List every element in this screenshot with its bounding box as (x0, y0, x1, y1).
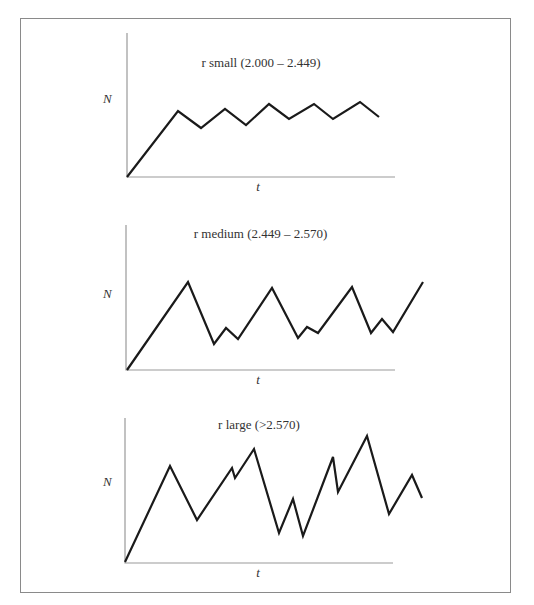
y-axis-label: N (102, 474, 113, 489)
chart-title: r medium (2.449 – 2.570) (194, 226, 328, 241)
x-axis-label: t (256, 179, 260, 194)
chart-title: r small (2.000 – 2.449) (201, 55, 320, 70)
y-axis-label: N (102, 286, 113, 301)
population-line (127, 282, 423, 370)
chart-panel-medium: r medium (2.449 – 2.570)Nt (102, 225, 423, 387)
population-line (125, 436, 422, 562)
figure-canvas: r small (2.000 – 2.449)Ntr medium (2.449… (0, 0, 534, 605)
chart-panel-small: r small (2.000 – 2.449)Nt (102, 33, 395, 194)
chart-panel-large: r large (>2.570)Nt (102, 417, 422, 580)
axes (126, 225, 395, 370)
chart-title: r large (>2.570) (218, 417, 300, 432)
y-axis-label: N (102, 91, 113, 106)
population-line (127, 102, 379, 177)
axes (125, 418, 393, 563)
x-axis-label: t (256, 372, 260, 387)
x-axis-label: t (256, 565, 260, 580)
